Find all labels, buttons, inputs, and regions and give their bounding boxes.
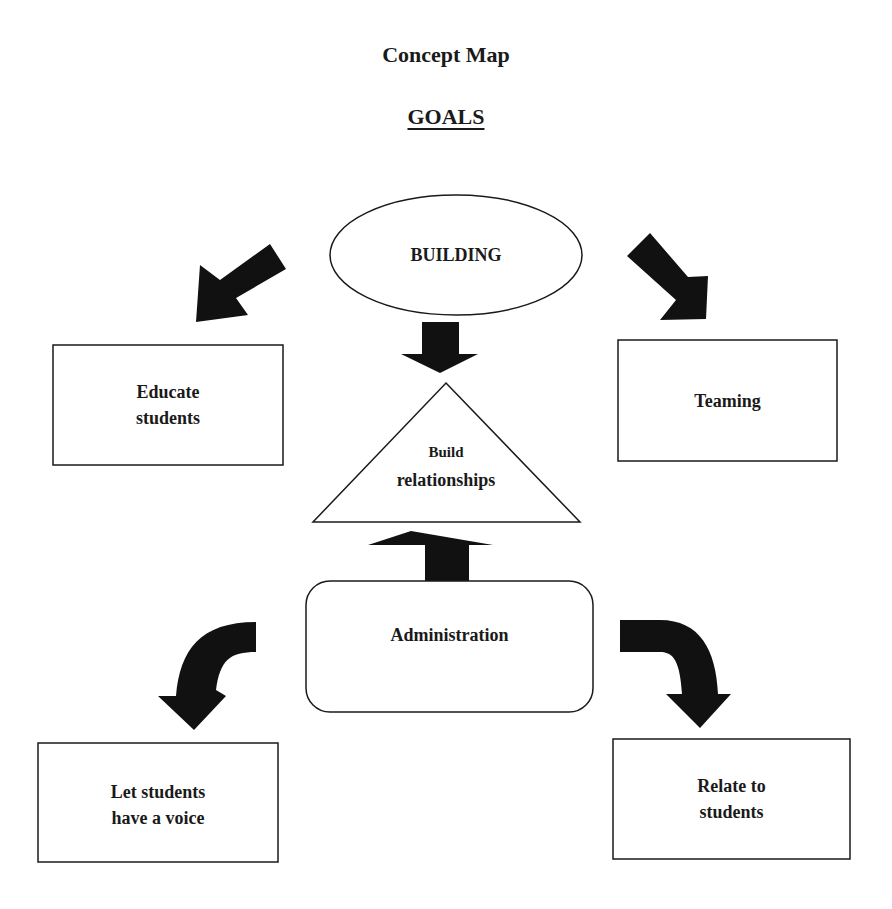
- arrow-to-relate-icon: [620, 620, 731, 728]
- building-node-label: BUILDING: [410, 242, 501, 268]
- relate-node-label-line2: students: [699, 799, 763, 825]
- arrow-to-build-relationships-icon: [401, 322, 478, 373]
- arrow-to-teaming-icon: [627, 233, 708, 320]
- build-relationships-node: Build relationships: [366, 436, 526, 496]
- administration-node-label: Administration: [390, 622, 508, 648]
- building-node: BUILDING: [330, 230, 582, 280]
- relate-node-label-line1: Relate to: [697, 773, 765, 799]
- educate-node-label-line1: Educate: [137, 379, 200, 405]
- voice-node-label-line1: Let students: [111, 779, 206, 805]
- teaming-node: Teaming: [618, 340, 837, 461]
- build-relationships-label-line2: relationships: [397, 466, 496, 494]
- build-relationships-label-line1: Build: [428, 438, 463, 466]
- teaming-node-label: Teaming: [694, 388, 760, 414]
- educate-node: Educate students: [53, 345, 283, 465]
- arrow-up-to-build-relationships-icon: [368, 531, 493, 582]
- voice-node: Let students have a voice: [38, 750, 278, 860]
- voice-node-label-line2: have a voice: [112, 805, 205, 831]
- administration-node: Administration: [306, 610, 593, 660]
- relate-node: Relate to students: [613, 739, 850, 859]
- arrow-to-educate-icon: [196, 244, 286, 322]
- educate-node-label-line2: students: [136, 405, 200, 431]
- arrow-to-voice-icon: [158, 622, 256, 730]
